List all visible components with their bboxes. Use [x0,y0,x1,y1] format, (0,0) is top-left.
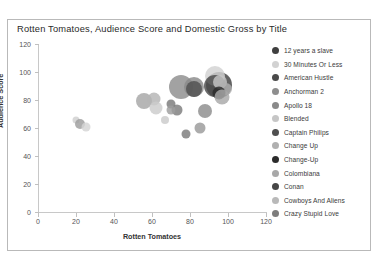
y-tick-label: 0 [5,209,31,216]
legend-swatch-icon [272,129,279,136]
x-axis-title: Rotten Tomatoes [123,232,181,241]
bubble-point[interactable] [198,104,212,118]
x-tick-label: 40 [99,218,129,225]
x-tick-mark [190,213,191,217]
legend-item[interactable]: Change-Up [272,153,370,167]
bubble-point[interactable] [182,129,191,138]
bubble-point[interactable] [186,81,202,97]
y-tick-label: 60 [5,125,31,132]
bubble-point[interactable] [194,123,205,134]
legend-swatch-icon [272,183,279,190]
legend-swatch-icon [272,74,279,81]
y-tick-label: 80 [5,97,31,104]
y-tick-label: 20 [5,181,31,188]
legend-item-label: 12 years a slave [284,47,333,54]
x-tick-label: 100 [213,218,243,225]
x-tick-mark [266,213,267,217]
legend-swatch-icon [272,170,279,177]
x-tick-mark [76,213,77,217]
legend-item[interactable]: Cowboys And Aliens [272,194,370,208]
x-tick-mark [228,213,229,217]
y-tick-label: 120 [5,41,31,48]
legend-item[interactable]: Conan [272,180,370,194]
legend-item-label: Captain Philips [284,129,329,136]
x-tick-mark [38,213,39,217]
bubble-point[interactable] [161,116,169,124]
legend-item[interactable]: Anchorman 2 [272,85,370,99]
legend-item-label: Colombiana [284,170,320,177]
bubble-point[interactable] [149,102,162,115]
legend-swatch-icon [272,142,279,149]
legend-item-label: Anchorman 2 [284,88,324,95]
legend-item[interactable]: 12 years a slave [272,44,370,58]
legend-item[interactable]: Captain Philips [272,126,370,140]
x-tick-mark [114,213,115,217]
x-tick-label: 20 [61,218,91,225]
bubble-point[interactable] [215,90,230,105]
x-tick-label: 80 [175,218,205,225]
legend-swatch-icon [272,88,279,95]
legend-item-label: Cowboys And Aliens [284,197,345,204]
legend-item[interactable]: American Hustle [272,71,370,85]
legend-item-label: Apollo 18 [284,102,312,109]
legend-swatch-icon [272,210,279,217]
bubble-chart-widget: Rotten Tomatoes, Audience Score and Dome… [0,0,379,259]
legend-swatch-icon [272,197,279,204]
legend-item[interactable]: Crazy Stupid Love [272,207,370,221]
y-tick-label: 40 [5,153,31,160]
y-tick-label: 100 [5,69,31,76]
legend-item[interactable]: Apollo 18 [272,98,370,112]
legend-item-label: Change-Up [284,156,318,163]
legend-item[interactable]: Colombiana [272,166,370,180]
legend-swatch-icon [272,115,279,122]
x-tick-mark [152,213,153,217]
chart-title: Rotten Tomatoes, Audience Score and Dome… [17,24,287,34]
bubble-point[interactable] [167,105,176,114]
x-tick-label: 60 [137,218,167,225]
legend-swatch-icon [272,61,279,68]
legend-item-label: Blended [284,115,309,122]
legend-item-label: 30 Minutes Or Less [284,61,342,68]
chart-legend: 12 years a slave30 Minutes Or LessAmeric… [272,44,370,244]
legend-swatch-icon [272,156,279,163]
y-axis-title: Audience Score [0,74,5,128]
bubble-point[interactable] [81,122,90,131]
legend-item-label: Change Up [284,142,318,149]
plot-area [38,44,266,212]
legend-swatch-icon [272,102,279,109]
legend-item[interactable]: Change Up [272,139,370,153]
legend-item[interactable]: Blended [272,112,370,126]
legend-swatch-icon [272,47,279,54]
legend-item-label: Crazy Stupid Love [284,210,339,217]
legend-item-label: American Hustle [284,74,333,81]
legend-item-label: Conan [284,183,304,190]
legend-item[interactable]: 30 Minutes Or Less [272,58,370,72]
x-tick-label: 0 [23,218,53,225]
